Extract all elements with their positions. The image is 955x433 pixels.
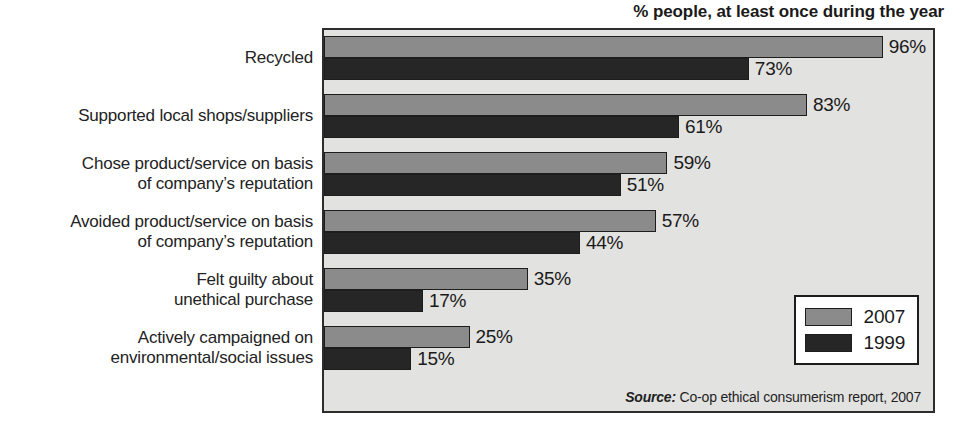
legend-swatch-1999 [805,334,852,352]
bar-value-label-2007-4: 35% [534,268,571,290]
bar-1999-2 [324,174,621,196]
bar-1999-3 [324,232,580,254]
category-label-1: Supported local shops/suppliers [0,106,313,126]
bar-2007-3 [324,210,656,232]
category-label-2-line-1: of company’s reputation [0,174,313,194]
bar-1999-4 [324,290,423,312]
bar-chart: % people, at least once during the year … [0,0,955,433]
legend-entry-2007: 2007 [805,304,905,330]
category-label-2: Chose product/service on basisof company… [0,154,313,194]
bar-2007-5 [324,326,470,348]
source-text: Co-op ethical consumerism report, 2007 [680,389,921,405]
bar-value-label-1999-3: 44% [586,232,623,254]
category-label-5-line-1: environmental/social issues [0,348,313,368]
bar-value-label-2007-3: 57% [662,210,699,232]
category-label-5: Actively campaigned onenvironmental/soci… [0,328,313,368]
bar-value-label-1999-2: 51% [627,174,664,196]
chart-legend: 20071999 [794,295,919,365]
category-label-3-line-1: of company’s reputation [0,232,313,252]
category-label-3: Avoided product/service on basisof compa… [0,212,313,252]
bar-value-label-2007-0: 96% [889,36,926,58]
bar-1999-1 [324,116,679,138]
category-label-5-line-0: Actively campaigned on [0,328,313,348]
bar-1999-0 [324,58,749,80]
category-label-2-line-0: Chose product/service on basis [0,154,313,174]
plot-area: 96%73%83%61%59%51%57%44%35%17%25%15% 200… [322,28,935,413]
chart-title: % people, at least once during the year [0,2,944,22]
bar-value-label-2007-5: 25% [476,326,513,348]
bar-2007-4 [324,268,528,290]
category-label-3-line-0: Avoided product/service on basis [0,212,313,232]
category-axis-labels: RecycledSupported local shops/suppliersC… [0,29,313,413]
legend-label-2007: 2007 [864,306,905,328]
category-label-0: Recycled [0,48,313,68]
category-label-4: Felt guilty aboutunethical purchase [0,270,313,310]
category-label-4-line-0: Felt guilty about [0,270,313,290]
source-prefix: Source: [625,389,676,405]
category-label-1-line-0: Supported local shops/suppliers [0,106,313,126]
legend-label-1999: 1999 [864,332,905,354]
category-label-0-line-0: Recycled [0,48,313,68]
legend-entry-1999: 1999 [805,330,905,356]
bar-value-label-1999-1: 61% [685,116,722,138]
bar-2007-0 [324,36,883,58]
source-note: Source: Co-op ethical consumerism report… [625,389,921,405]
bar-2007-2 [324,152,667,174]
bar-value-label-1999-4: 17% [429,290,466,312]
bar-value-label-1999-0: 73% [755,58,792,80]
category-label-4-line-1: unethical purchase [0,290,313,310]
legend-swatch-2007 [805,308,852,326]
bar-1999-5 [324,348,411,370]
bar-2007-1 [324,94,807,116]
bar-value-label-1999-5: 15% [417,348,454,370]
bar-value-label-2007-1: 83% [813,94,850,116]
bar-value-label-2007-2: 59% [673,152,710,174]
